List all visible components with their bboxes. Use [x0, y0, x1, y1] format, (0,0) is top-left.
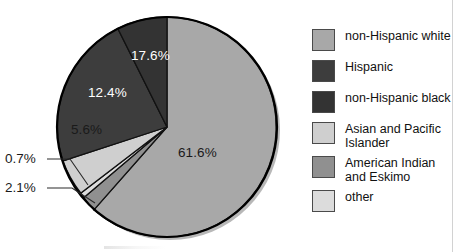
slice-label-hispanic: 12.4% [88, 85, 127, 100]
legend-label-other: other [345, 189, 374, 204]
pie-chart-area: 17.6% 12.4% 5.6% 61.6% 0.7% 2.1% [0, 0, 300, 252]
legend-label-line1: non-Hispanic white [345, 29, 451, 43]
legend-label-non-hispanic-white: non-Hispanic white [345, 28, 451, 43]
legend-label-line1: Asian and Pacific [345, 122, 441, 136]
legend-swatch-icon-other [312, 190, 335, 212]
legend-label-line1: American Indian [345, 156, 435, 170]
legend-swatch-icon-hispanic [312, 60, 335, 82]
legend-item-hispanic[interactable]: Hispanic [312, 59, 452, 85]
legend-label-line1: non-Hispanic black [345, 91, 451, 105]
legend-swatch-icon-non-hispanic-white [312, 29, 335, 51]
legend-item-other[interactable]: other [312, 189, 452, 215]
pie-svg [0, 0, 300, 252]
slice-label-non-hispanic-black: 17.6% [131, 48, 170, 63]
legend-swatch-icon-asian-and-pacific-islander [312, 122, 335, 144]
slice-label-non-hispanic-white: 61.6% [178, 145, 217, 160]
legend-label-hispanic: Hispanic [345, 59, 393, 74]
pie-chart-figure: 17.6% 12.4% 5.6% 61.6% 0.7% 2.1% non-His… [0, 0, 459, 252]
slice-label-other: 0.7% [5, 151, 36, 166]
legend-item-asian-and-pacific-islander[interactable]: Asian and Pacific Islander [312, 121, 452, 150]
legend-item-non-hispanic-white[interactable]: non-Hispanic white [312, 28, 452, 54]
slice-label-american-indian-and-eskimo: 2.1% [5, 180, 36, 195]
legend-label-asian-and-pacific-islander: Asian and Pacific Islander [345, 121, 441, 150]
slice-label-asian-and-pacific-islander: 5.6% [71, 122, 102, 137]
legend-label-non-hispanic-black: non-Hispanic black [345, 90, 451, 105]
legend: non-Hispanic white Hispanic non-Hispanic… [312, 28, 452, 220]
legend-label-line1: other [345, 190, 374, 204]
right-border-rule [452, 0, 453, 252]
legend-label-american-indian-and-eskimo: American Indian and Eskimo [345, 155, 435, 184]
legend-item-american-indian-and-eskimo[interactable]: American Indian and Eskimo [312, 155, 452, 184]
legend-item-non-hispanic-black[interactable]: non-Hispanic black [312, 90, 452, 116]
legend-swatch-icon-american-indian-and-eskimo [312, 156, 335, 178]
legend-label-line2: and Eskimo [345, 170, 435, 184]
legend-label-line1: Hispanic [345, 60, 393, 74]
legend-swatch-icon-non-hispanic-black [312, 91, 335, 113]
scan-artifact [104, 246, 166, 249]
legend-label-line2: Islander [345, 136, 441, 150]
